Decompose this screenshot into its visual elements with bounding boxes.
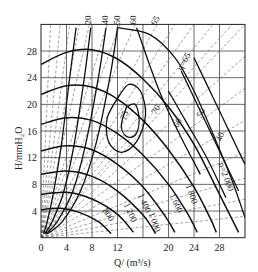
x-tick-label: 24 <box>189 242 199 253</box>
x-tick-label: 4 <box>64 242 69 253</box>
y-tick-label: 24 <box>27 72 37 83</box>
x-tick-label: 20 <box>164 242 174 253</box>
curve-label: 75 <box>118 109 131 121</box>
x-tick-label: 8 <box>90 242 95 253</box>
curve-label: 65 <box>148 14 161 27</box>
curve-label: η=65 <box>175 50 193 72</box>
curve-label: 60 <box>171 116 184 129</box>
speed-curve <box>41 192 133 232</box>
curve-label: 1 800 <box>184 183 200 206</box>
y-tick-label: 8 <box>32 179 37 190</box>
x-axis-label: Q/ (m³/s) <box>114 257 151 269</box>
x-tick-label: 28 <box>215 242 225 253</box>
curve-label: 50 <box>112 15 122 25</box>
y-tick-label: 12 <box>27 152 37 163</box>
y-tick-label: 20 <box>27 99 37 110</box>
y-axis-label: H/mmH₂O <box>13 127 24 171</box>
curve-label: 40 <box>100 15 110 25</box>
curve-label: 60 <box>128 15 138 25</box>
y-tick-label: 4 <box>32 206 37 217</box>
x-axis-ticks: 04812202428 <box>39 242 225 253</box>
curve-label: 20 <box>83 15 93 25</box>
y-axis-ticks: 481216202428 <box>27 46 37 217</box>
y-tick-label: 16 <box>27 126 37 137</box>
fan-performance-chart: 04812202428 481216202428 2040506065η=657… <box>0 0 258 272</box>
curve-label: 800 <box>101 206 117 223</box>
x-tick-label: 12 <box>113 242 123 253</box>
y-tick-label: 28 <box>27 46 37 57</box>
x-tick-label: 0 <box>39 242 44 253</box>
